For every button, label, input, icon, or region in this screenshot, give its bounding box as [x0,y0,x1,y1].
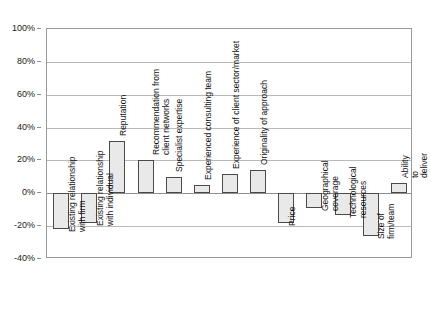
category-label: Reputation [119,95,129,136]
y-axis-tick-mark [37,192,41,193]
gridline [47,128,411,129]
category-label: Experienced consulting team [204,71,214,180]
bar [194,185,210,193]
y-axis-tick-mark [37,225,41,226]
bar [391,183,407,193]
y-axis-tick-label: -20% [14,221,35,230]
bar [250,170,266,193]
y-axis-tick-label: 20% [17,155,35,164]
y-axis-tick-mark [37,94,41,95]
y-axis-tick-mark [37,127,41,128]
y-axis-tick-label: 100% [12,24,35,33]
category-label: Originality of approach [260,80,270,165]
category-label: Existing relationship with firm [68,157,87,233]
category-label: Geographical coverage [321,161,340,212]
y-axis: 100%80%60%40%20%0%-20%-40% [0,0,44,330]
y-axis-tick-label: 0% [22,188,35,197]
gridline [47,62,411,63]
y-axis-tick-label: 60% [17,89,35,98]
bar [138,160,154,193]
category-label: Technological resources [349,166,368,218]
bar-chart: 100%80%60%40%20%0%-20%-40% Existing rela… [0,0,431,330]
category-label: Specialist expertise [175,99,185,172]
category-label: Ability to deliver [401,148,430,178]
y-axis-tick-mark [37,61,41,62]
y-axis-tick-label: 80% [17,56,35,65]
bar [222,174,238,194]
y-axis-tick-label: -40% [14,254,35,263]
y-axis-tick-label: 40% [17,122,35,131]
y-axis-tick-mark [37,258,41,259]
bar [166,177,182,193]
category-label: Existing relationship with individual [96,150,115,226]
y-axis-tick-mark [37,28,41,29]
category-label: Price [288,206,298,225]
category-label: Experience of client sector/market [232,41,242,169]
y-axis-tick-mark [37,159,41,160]
category-label: Size of firm/team [377,204,396,239]
category-label: Recommendation from client networks [152,69,171,155]
gridline [47,95,411,96]
gridline [47,226,411,227]
